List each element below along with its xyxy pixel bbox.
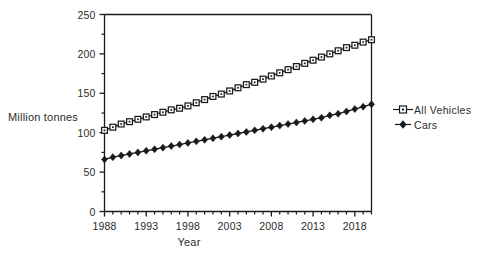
y-tick-label: 200 <box>56 48 96 60</box>
legend-label: All Vehicles <box>414 104 471 116</box>
x-tick-label: 2003 <box>210 220 250 232</box>
data-series-layer <box>102 37 375 163</box>
legend-item-all-vehicles[interactable]: All Vehicles <box>392 102 491 117</box>
y-tick-label: 150 <box>56 87 96 99</box>
legend-label: Cars <box>414 119 437 131</box>
series-all-vehicles <box>102 37 375 133</box>
x-axis-ticks <box>105 212 372 217</box>
chart-legend: All Vehicles Cars <box>392 102 491 132</box>
y-tick-label: 0 <box>56 206 96 218</box>
y-tick-label: 250 <box>56 9 96 21</box>
x-tick-label: 2013 <box>293 220 333 232</box>
x-tick-label: 2018 <box>335 220 375 232</box>
series-cars <box>102 101 375 163</box>
y-axis-title: Million tonnes <box>8 111 78 124</box>
axis-lines <box>105 15 372 212</box>
y-tick-label: 50 <box>56 166 96 178</box>
y-axis-ticks <box>100 15 105 212</box>
open-square-marker-icon <box>392 102 414 117</box>
x-tick-label: 2008 <box>251 220 291 232</box>
y-tick-label: 100 <box>56 127 96 139</box>
legend-item-cars[interactable]: Cars <box>392 117 491 132</box>
chart-figure: Million tonnes Year 050100150200250 1988… <box>0 0 491 258</box>
x-tick-label: 1993 <box>126 220 166 232</box>
x-tick-label: 1998 <box>168 220 208 232</box>
x-tick-label: 1988 <box>85 220 125 232</box>
filled-diamond-marker-icon <box>392 117 414 132</box>
x-axis-title: Year <box>0 236 378 249</box>
